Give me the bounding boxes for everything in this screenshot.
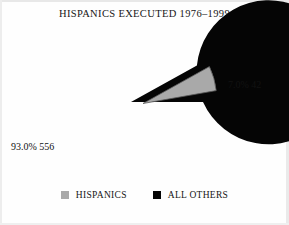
legend-item-all-others: ALL OTHERS [153, 190, 228, 200]
legend-swatch-hispanics-icon [61, 191, 69, 199]
chart-legend: HISPANICS ALL OTHERS [0, 190, 289, 200]
legend-item-hispanics: HISPANICS [61, 190, 127, 200]
legend-swatch-all-others-icon [153, 191, 161, 199]
legend-label-hispanics: HISPANICS [76, 190, 127, 200]
pie-chart-figure: HISPANICS EXECUTED 1976–1999 93.0% 556 7… [0, 0, 289, 225]
slice-label-all-others: 93.0% 556 [11, 141, 54, 152]
legend-label-all-others: ALL OTHERS [168, 190, 228, 200]
slice-label-hispanics: 7.0% 42 [228, 79, 261, 90]
